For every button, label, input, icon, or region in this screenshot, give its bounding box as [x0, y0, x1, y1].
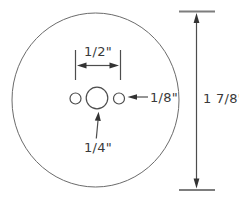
drawing-canvas: 1/2" 1/8" 1/4" 1 7/8" [0, 0, 239, 205]
center-hole [86, 87, 108, 109]
center-hole-arrowhead-icon [95, 112, 101, 121]
left-side-hole [70, 93, 81, 104]
technical-drawing: 1/2" 1/8" 1/4" 1 7/8" [0, 0, 239, 205]
center-hole-leader-line [96, 121, 98, 139]
side-hole-arrowhead-icon [128, 94, 138, 100]
disc-diameter-arrowhead-bottom-icon [194, 179, 200, 189]
right-side-hole [114, 93, 125, 104]
side-hole-diameter-label: 1/8" [150, 90, 178, 105]
left-arrowhead-icon [77, 63, 87, 69]
right-arrowhead-icon [110, 63, 120, 69]
center-hole-diameter-label: 1/4" [84, 140, 112, 155]
disc-diameter-arrowhead-top-icon [194, 13, 200, 23]
hole-spacing-label: 1/2" [84, 44, 112, 59]
disc-diameter-label: 1 7/8" [203, 91, 239, 106]
